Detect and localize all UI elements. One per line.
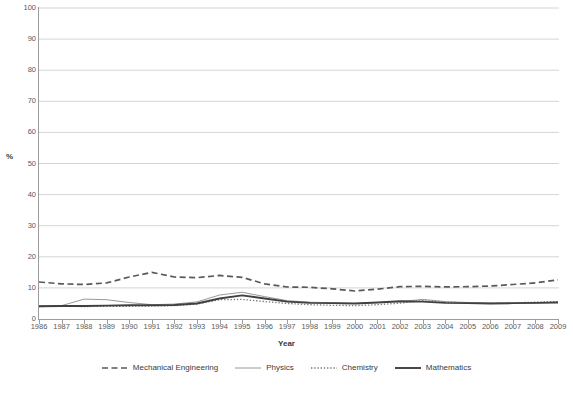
x-axis-line xyxy=(38,319,559,320)
x-axis-tick-mark xyxy=(84,320,85,324)
y-axis-tick-label: 40 xyxy=(10,191,36,199)
x-axis-tick-mark xyxy=(445,320,446,324)
x-axis-tick-mark xyxy=(423,320,424,324)
x-axis-title: Year xyxy=(0,339,573,348)
legend-swatch-icon xyxy=(102,364,128,372)
x-axis-tick-mark xyxy=(107,320,108,324)
x-axis-tick-mark xyxy=(62,320,63,324)
gridlines xyxy=(39,8,559,288)
series-lines xyxy=(39,272,558,306)
x-axis-tick-mark xyxy=(513,320,514,324)
y-axis-tick-label: 10 xyxy=(10,284,36,292)
x-axis-tick-mark xyxy=(468,320,469,324)
legend-item[interactable]: Mechanical Engineering xyxy=(102,363,218,372)
plot-svg xyxy=(39,7,559,319)
y-axis-tick-label: 80 xyxy=(10,66,36,74)
x-axis-tick-mark xyxy=(152,320,153,324)
legend-swatch-icon xyxy=(311,364,337,372)
x-axis-tick-mark xyxy=(535,320,536,324)
x-axis-tick-mark xyxy=(287,320,288,324)
x-axis-tick-mark xyxy=(242,320,243,324)
x-axis-tick-mark xyxy=(558,320,559,324)
x-axis-tick-mark xyxy=(310,320,311,324)
x-axis-tick-mark xyxy=(220,320,221,324)
x-axis-tick-mark xyxy=(129,320,130,324)
chart-legend: Mechanical EngineeringPhysicsChemistryMa… xyxy=(0,363,573,372)
y-axis-tick-label: 90 xyxy=(10,35,36,43)
legend-item[interactable]: Mathematics xyxy=(395,363,471,372)
y-axis-tick-label: 60 xyxy=(10,128,36,136)
y-axis-tick-labels: 0102030405060708090100 xyxy=(6,0,36,330)
legend-label: Mechanical Engineering xyxy=(133,363,218,372)
x-axis-tick-mark xyxy=(332,320,333,324)
x-axis-tick-mark xyxy=(377,320,378,324)
x-axis-tick-mark xyxy=(355,320,356,324)
x-axis-tick-mark xyxy=(174,320,175,324)
plot-area xyxy=(39,7,559,319)
legend-swatch-icon xyxy=(235,364,261,372)
legend-swatch-icon xyxy=(395,364,421,372)
x-axis-tick-mark xyxy=(400,320,401,324)
legend-label: Chemistry xyxy=(342,363,378,372)
y-axis-line xyxy=(38,7,39,320)
legend-item[interactable]: Chemistry xyxy=(311,363,378,372)
x-axis-tick-mark xyxy=(197,320,198,324)
y-axis-tick-label: 100 xyxy=(10,4,36,12)
y-axis-tick-label: 30 xyxy=(10,222,36,230)
y-axis-tick-label: 70 xyxy=(10,97,36,105)
x-axis-tick-mark xyxy=(39,320,40,324)
y-axis-tick-label: 20 xyxy=(10,253,36,261)
legend-item[interactable]: Physics xyxy=(235,363,294,372)
legend-label: Physics xyxy=(266,363,294,372)
x-axis-tick-label: 2009 xyxy=(541,322,573,331)
line-chart: % 0102030405060708090100 198619871988198… xyxy=(0,0,573,395)
legend-label: Mathematics xyxy=(426,363,471,372)
x-axis-tick-mark xyxy=(265,320,266,324)
y-axis-tick-label: 50 xyxy=(10,160,36,168)
x-axis-tick-mark xyxy=(490,320,491,324)
